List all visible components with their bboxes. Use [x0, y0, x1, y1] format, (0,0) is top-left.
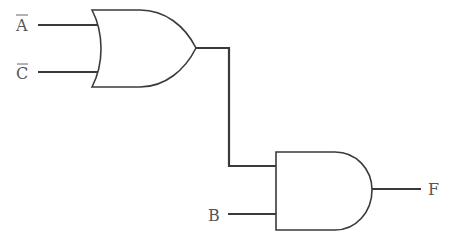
input-a-bar: A [15, 15, 99, 35]
output-label-f: F [428, 180, 439, 199]
wire-or-to-and [196, 48, 276, 166]
or-gate [92, 10, 196, 87]
input-label-a: A [15, 16, 28, 35]
input-b: B [208, 206, 276, 225]
logic-circuit-diagram: A C B F [0, 0, 451, 245]
input-label-c: C [16, 64, 28, 83]
output-f: F [372, 180, 439, 199]
input-c-bar: C [16, 64, 99, 83]
and-gate [276, 152, 372, 230]
input-label-b: B [208, 206, 220, 225]
